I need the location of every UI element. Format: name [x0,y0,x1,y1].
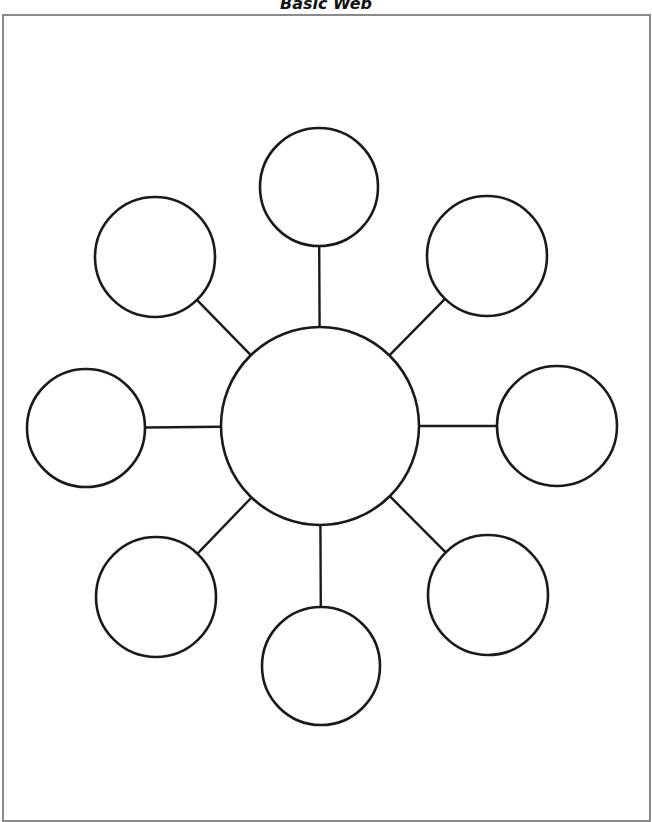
node-top[interactable] [260,128,378,246]
connector-node-top-right [389,299,445,356]
center-node[interactable] [221,327,419,525]
connector-node-bottom-right [390,496,446,552]
node-left[interactable] [27,369,145,487]
node-bottom-right[interactable] [428,535,548,655]
node-bottom-left[interactable] [96,537,216,657]
node-right[interactable] [497,366,617,486]
connector-node-bottom-left [198,498,252,554]
node-top-left[interactable] [95,197,215,317]
connector-node-top-left [197,300,251,355]
node-bottom[interactable] [262,607,380,725]
connector-node-left [145,427,221,428]
node-top-right[interactable] [427,196,547,316]
basic-web-diagram [0,0,652,822]
